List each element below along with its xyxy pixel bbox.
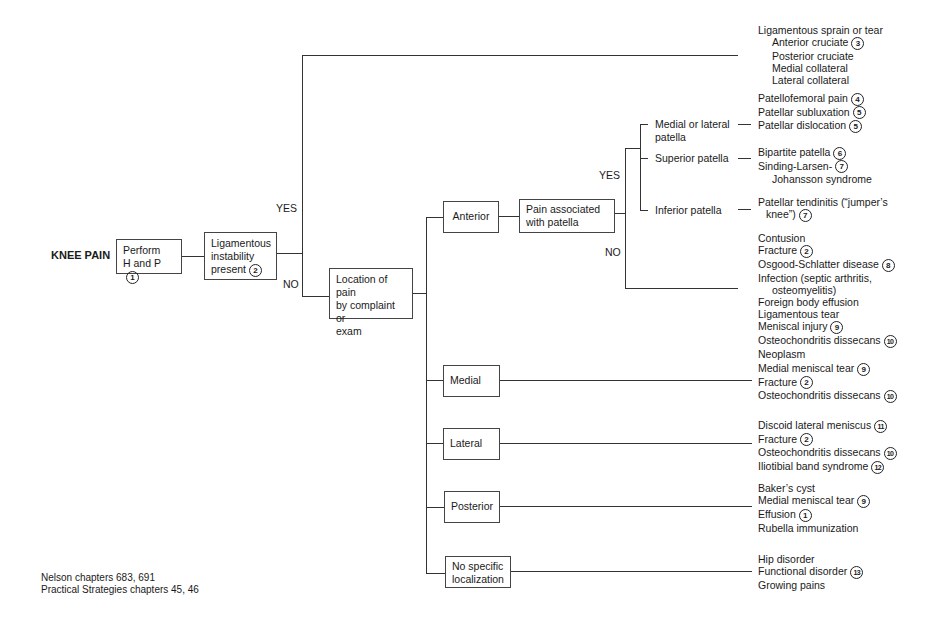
connector-line [640,158,648,159]
box-label: Lateral [450,437,482,449]
connector-line [182,256,204,257]
diagnosis-item: Discoid lateral meniscus11 [758,419,897,433]
diagnosis-item: Johansson syndrome [758,173,872,185]
reference-number-badge: 8 [882,259,895,272]
diagnosis-item: Ligamentous tear [758,308,897,320]
reference-number-badge: 10 [884,335,897,348]
box-label: Medial [450,374,481,386]
diagnosis-item: Fracture2 [758,433,897,447]
location-branch-line [426,217,427,574]
inferior-patella-dx: Patellar tendinitis (“jumper’s knee”)7 [758,196,888,222]
reference-number-badge: 9 [857,495,870,508]
yes-branch-line [302,55,738,56]
patella-yes-line [625,148,640,149]
diagnosis-item: Osteochondritis dissecans10 [758,334,897,348]
diagnosis-item: Osgood-Schlatter disease8 [758,258,897,272]
connector-line [426,217,443,218]
medial-dx: Medial meniscal tear9 Fracture2 Osteocho… [758,362,897,403]
location-of-pain-box: Location of pain by complaint or exam [329,268,413,319]
connector-line [738,158,751,159]
patella-no-label: NO [605,246,621,259]
reference-number-badge: 2 [800,376,813,389]
yes-label: YES [276,202,297,215]
reference-number-badge: 10 [884,390,897,403]
connector-line [499,216,519,217]
diagnosis-item: Functional disorder13 [758,565,863,579]
connector-line [500,506,752,507]
posterior-dx: Baker’s cyst Medial meniscal tear9 Effus… [758,482,870,534]
reference-number-badge: 2 [249,264,262,277]
connector-line [413,293,426,294]
diagnosis-item: Patellofemoral pain4 [758,92,866,106]
decision-branch-line [302,55,303,297]
connector-line [426,380,443,381]
box-line: exam [336,325,362,337]
diagnosis-item: Anterior cruciate3 [758,36,883,50]
reference-number-badge: 2 [800,433,813,446]
box-line: Pain associated [526,203,600,215]
superior-patella-dx: Bipartite patella6 Sinding-Larsen-7 Joha… [758,146,872,186]
diagnosis-item: Hip disorder [758,553,863,565]
box-line: by complaint or [336,299,395,324]
diagnosis-item: Growing pains [758,579,863,591]
superior-patella-label: Superior patella [655,152,729,165]
medial-or-lateral-patella-label: Medial or lateral patella [655,118,730,144]
anterior-box: Anterior [443,201,499,233]
diagnosis-item: Patellar tendinitis (“jumper’s [758,196,888,208]
box-line: present [211,263,246,275]
medial-box: Medial [443,365,500,397]
box-line: Perform [123,244,160,256]
connector-line [738,124,751,125]
connector-line [640,124,648,125]
reference-number-badge: 10 [884,447,897,460]
reference-number-badge: 7 [799,209,812,222]
reference-number-badge: 6 [833,147,846,160]
reference-number-badge: 11 [874,420,887,433]
connector-line [738,209,751,210]
diagram-title: KNEE PAIN [51,249,110,262]
diagnosis-item: Meniscal injury9 [758,320,897,334]
outcome-heading: Ligamentous sprain or tear [758,24,883,36]
patella-no-line [625,288,738,289]
reference-number-badge: 13 [850,566,863,579]
reference-number-badge: 2 [800,245,813,258]
box-line: Ligamentous [211,237,271,249]
lateral-dx: Discoid lateral meniscus11 Fracture2 Ost… [758,419,897,474]
box-line: with patella [526,216,579,228]
perform-h-and-p-box: Perform H and P1 [116,239,182,274]
diagnosis-item: knee”)7 [758,208,888,222]
reference-number-badge: 12 [871,461,884,474]
reference-number-badge: 5 [849,120,862,133]
connector-line [500,443,752,444]
chapter-references: Nelson chapters 683, 691 Practical Strat… [41,572,199,596]
diagnosis-item: Lateral collateral [758,74,883,86]
diagnosis-item: Fracture2 [758,376,897,390]
box-line: localization [452,573,504,585]
box-line: instability [211,250,254,262]
diagnosis-item: Patellar subluxation5 [758,106,866,120]
inferior-patella-label: Inferior patella [655,204,722,217]
reference-line: Practical Strategies chapters 45, 46 [41,584,199,595]
posterior-box: Posterior [444,491,500,523]
medial-lateral-patella-dx: Patellofemoral pain4 Patellar subluxatio… [758,92,866,133]
ligamentous-sprain-outcome: Ligamentous sprain or tear Anterior cruc… [758,24,883,87]
reference-number-badge: 5 [853,106,866,119]
reference-number-badge: 7 [835,160,848,173]
diagnosis-item: Medial meniscal tear9 [758,494,870,508]
reference-number-badge: 4 [851,93,864,106]
diagnosis-item: Patellar dislocation5 [758,119,866,133]
reference-number-badge: 3 [851,37,864,50]
no-specific-localization-box: No specific localization [445,556,511,588]
box-line: Location of pain [336,273,387,298]
connector-line [426,507,444,508]
connector-line [511,571,752,572]
diagnosis-item: osteomyelitis) [758,284,897,296]
diagnosis-item: Osteochondritis dissecans10 [758,446,897,460]
diagnosis-item: Iliotibial band syndrome12 [758,460,897,474]
reference-number-badge: 1 [799,509,812,522]
diagnosis-item: Rubella immunization [758,522,870,534]
diagnosis-item: Baker’s cyst [758,482,870,494]
connector-line [615,213,625,214]
connector-line [500,380,752,381]
lateral-box: Lateral [443,428,500,460]
